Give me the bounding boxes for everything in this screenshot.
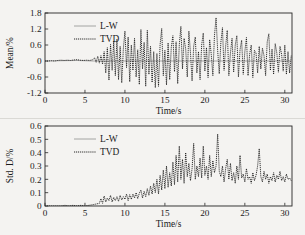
x-tick-label: 25 [240,95,250,105]
x-tick-label: 15 [160,95,170,105]
stddev-chart-svg: 05101520253000.10.20.30.40.50.6Time/sStd… [0,117,305,235]
chart-panel-mean: 051015202530-1.2-0.600.61.21.8Time/sMean… [0,0,305,117]
y-axis-label: Std. D/% [5,149,15,184]
x-tick-label: 30 [280,95,290,105]
mean-chart-svg: 051015202530-1.2-0.600.61.21.8Time/sMean… [0,0,305,117]
x-tick-label: 30 [280,208,290,218]
x-tick-label: 5 [83,208,88,218]
y-tick-label: 0 [37,56,42,66]
y-tick-label: 0 [37,201,42,211]
x-tick-label: 20 [200,208,210,218]
x-tick-label: 15 [160,208,170,218]
x-tick-label: 20 [200,95,210,105]
y-tick-label: 0.4 [30,148,42,158]
y-tick-label: 0.6 [30,40,42,50]
legend-label-tvd: TVD [100,34,119,44]
y-axis-label: Mean/% [5,37,15,69]
y-tick-label: 0.6 [30,121,42,131]
x-tick-label: 10 [120,95,130,105]
y-tick-label: 0.1 [30,188,42,198]
x-tick-label: 0 [43,95,48,105]
y-tick-label: 1.8 [30,8,42,18]
legend-label-tvd: TVD [100,147,119,157]
y-tick-label: -1.2 [27,88,42,98]
x-tick-label: 25 [240,208,250,218]
y-tick-label: 0.3 [30,161,42,171]
y-tick-label: -0.6 [27,72,42,82]
chart-panel-stddev: 05101520253000.10.20.30.40.50.6Time/sStd… [0,117,305,235]
x-axis-label: Time/s [156,106,182,116]
x-tick-label: 10 [120,208,130,218]
series-tvd [45,134,291,206]
x-tick-label: 5 [83,95,88,105]
x-axis-label: Time/s [156,219,182,229]
y-tick-label: 0.2 [30,175,42,185]
legend-label-l-w: L-W [100,21,118,31]
y-tick-label: 1.2 [30,24,42,34]
figure-container: 051015202530-1.2-0.600.61.21.8Time/sMean… [0,0,305,235]
y-tick-label: 0.5 [30,135,42,145]
legend-label-l-w: L-W [100,134,118,144]
series-tvd [45,18,291,88]
x-tick-label: 0 [43,208,48,218]
